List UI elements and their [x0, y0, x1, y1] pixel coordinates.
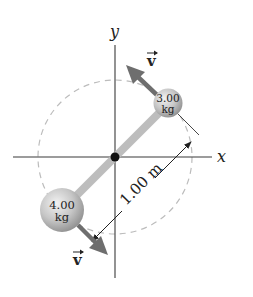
- velocity-label-large: v: [72, 251, 83, 269]
- velocity-label-small: v: [146, 52, 157, 70]
- dimension-tick: [176, 112, 199, 135]
- velocity-arrow-small-shaft: [138, 77, 158, 96]
- vector-arrowhead-large: [80, 250, 84, 255]
- mass-large-unit: kg: [55, 210, 70, 224]
- vector-arrowhead-small: [154, 51, 158, 56]
- length-label: 1.00 m: [116, 159, 166, 209]
- velocity-arrow-large-shaft: [78, 225, 96, 243]
- x-axis-label: x: [217, 147, 226, 166]
- pivot-point: [111, 153, 120, 162]
- y-axis-label: y: [109, 22, 120, 41]
- mass-small-unit: kg: [161, 103, 174, 115]
- dimension-line-lower: [92, 211, 122, 241]
- rotating-dumbbell-diagram: x y 1.00 m v v 3.00 kg 4.00 kg: [0, 0, 253, 297]
